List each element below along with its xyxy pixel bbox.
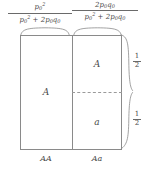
lower-half-numerator: 1 [131,111,143,118]
top-label-left-fraction: p02 p02 + 2p0q0 [8,2,72,24]
cell-letter-right-lower: a [72,118,122,127]
left-fraction-numerator: p02 [8,2,72,12]
side-label-upper-half: 1 2 [131,53,143,70]
upper-half-numerator: 1 [131,53,143,60]
allele-split-dashed-line [72,92,122,93]
cell-letter-left-column: A [20,88,72,97]
right-fraction-numerator: 2p0q0 [72,2,138,10]
lower-half-denominator: 2 [131,120,143,127]
right-fraction-denominator: p02 + 2p0q0 [72,12,138,22]
bottom-label-Aa: Aa [72,155,122,163]
cell-letter-right-upper: A [72,60,122,69]
side-label-lower-half: 1 2 [131,111,143,128]
upper-half-denominator: 2 [131,62,143,69]
genotype-frequency-figure: p02 p02 + 2p0q0 2p0q0 p02 + 2p0q0 A A a … [0,0,146,173]
bottom-label-AA: AA [20,155,72,163]
top-label-right-fraction: 2p0q0 p02 + 2p0q0 [72,2,138,22]
left-fraction-denominator: p02 + 2p0q0 [8,14,72,24]
